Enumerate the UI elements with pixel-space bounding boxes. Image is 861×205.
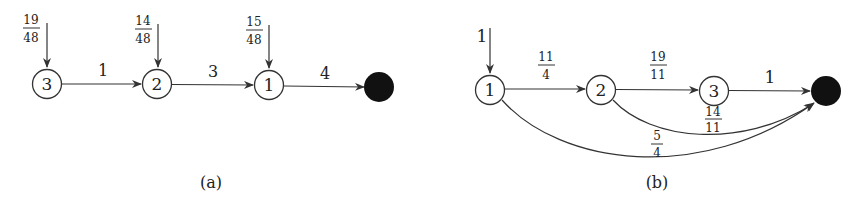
input-label-n1: 15 48 [246,15,263,47]
svg-text:19: 19 [23,13,38,27]
svg-text:5: 5 [653,129,661,143]
sink-node [364,72,394,102]
svg-text:2: 2 [152,74,163,94]
svg-text:11: 11 [538,50,553,64]
edge-m2-m3 [616,90,698,91]
svg-text:4: 4 [653,146,661,160]
node-1: 1 [476,76,505,105]
svg-text:48: 48 [246,33,261,47]
input-label-m1: 1 [477,26,488,46]
svg-text:1: 1 [264,75,275,95]
caption-a: (a) [200,173,222,192]
edge-label-m2-m3: 19 11 [650,50,667,82]
node-1: 1 [255,71,284,100]
edge-label-m1-m2: 11 4 [538,50,555,82]
sink-node [811,76,841,106]
edge-m3-sink [729,91,810,92]
svg-text:1: 1 [485,80,496,100]
edge-label-m1-sink: 5 4 [651,129,663,160]
svg-text:3: 3 [42,74,53,94]
edge-n2-n1 [172,85,253,86]
node-2: 2 [587,76,616,105]
edge-label-m2-sink: 14 11 [705,105,722,135]
edge-label-n1-sink: 4 [320,64,330,83]
svg-text:19: 19 [650,50,665,64]
node-3: 3 [33,70,62,99]
svg-text:3: 3 [709,81,720,101]
node-3: 3 [700,77,729,106]
svg-text:48: 48 [23,31,38,45]
svg-text:15: 15 [246,15,261,29]
caption-b: (b) [646,173,669,192]
svg-text:48: 48 [135,32,150,46]
edge-label-n3-n2: 1 [98,61,108,80]
svg-text:11: 11 [705,121,720,135]
svg-text:4: 4 [542,68,550,82]
edge-label-m3-sink: 1 [765,67,776,87]
edge-n1-sink [284,86,364,87]
svg-text:14: 14 [135,14,151,28]
svg-text:14: 14 [705,105,721,119]
figure-canvas: 19 48 14 48 15 48 1 3 4 3 2 [0,0,861,205]
figure-a: 19 48 14 48 15 48 1 3 4 3 2 [23,13,394,192]
svg-text:2: 2 [596,80,607,100]
node-2: 2 [143,70,172,99]
figure-b: 1 11 4 19 11 1 14 11 5 4 [476,26,842,192]
input-label-n2: 14 48 [135,14,152,46]
input-label-n3: 19 48 [23,13,40,45]
edge-label-n2-n1: 3 [208,62,218,81]
svg-text:11: 11 [650,68,665,82]
